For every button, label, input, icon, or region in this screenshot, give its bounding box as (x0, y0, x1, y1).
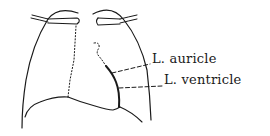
chest-heart-diagram: L. auricle L. ventricle (0, 0, 270, 136)
great-vessels-dotted (94, 43, 106, 66)
right-diaphragm (25, 97, 68, 117)
auricle-leader-line (112, 64, 150, 73)
label-l-auricle: L. auricle (152, 51, 217, 66)
left-diaphragm (120, 107, 142, 122)
left-heart-border (106, 66, 119, 107)
right-heart-border-dotted (68, 26, 76, 97)
left-lung-border (93, 10, 151, 120)
chest-outline-drawing (0, 0, 270, 136)
right-lung-border (22, 11, 78, 128)
label-l-ventricle: L. ventricle (164, 72, 241, 87)
heart-base-diaphragm (68, 97, 120, 110)
ventricle-leader-line (119, 86, 162, 88)
left-clavicle (97, 15, 138, 25)
right-clavicle (31, 15, 79, 24)
